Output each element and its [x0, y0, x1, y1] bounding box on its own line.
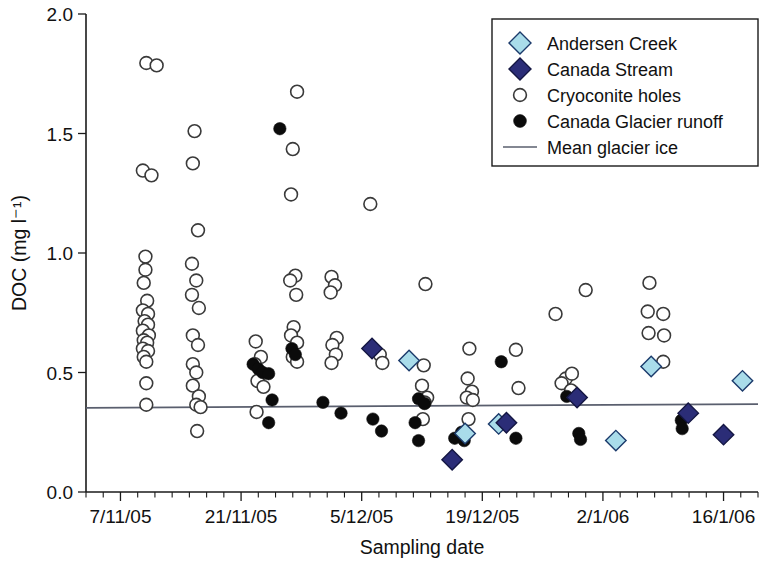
point-andersen-creek [606, 430, 626, 450]
point-cryoconite-holes [249, 335, 262, 348]
figure-container: 0.00.51.01.52.07/11/0521/11/055/12/0519/… [0, 0, 770, 563]
point-cryoconite-holes [657, 308, 670, 321]
point-cryoconite-holes [140, 377, 153, 390]
point-cryoconite-holes [643, 276, 656, 289]
axis-titles-group: Sampling dateDOC (mg l⁻¹) [8, 195, 484, 558]
x-axis-title: Sampling date [360, 536, 485, 558]
y-tick-label: 0.0 [47, 482, 73, 503]
point-cryoconite-holes [257, 380, 270, 393]
point-cryoconite-holes [376, 357, 389, 370]
x-tick-label: 19/12/05 [445, 506, 519, 527]
point-cryoconite-holes [186, 257, 199, 270]
point-cryoconite-holes [192, 339, 205, 352]
point-cryoconite-holes [549, 308, 562, 321]
point-cryoconite-holes [145, 169, 158, 182]
y-tick-label: 1.0 [47, 243, 73, 264]
point-cryoconite-holes [290, 288, 303, 301]
point-canada-glacier-runoff [266, 394, 278, 406]
point-cryoconite-holes [463, 342, 476, 355]
point-cryoconite-holes [510, 343, 523, 356]
point-cryoconite-holes [641, 305, 654, 318]
point-cryoconite-holes [192, 302, 205, 315]
point-cryoconite-holes [139, 250, 152, 263]
x-tick-label: 21/11/05 [205, 506, 278, 527]
doc-scatter-chart: 0.00.51.01.52.07/11/0521/11/055/12/0519/… [0, 0, 770, 563]
point-cryoconite-holes [250, 406, 263, 419]
x-tick-label: 16/1/06 [692, 506, 755, 527]
chart-legend: Andersen CreekCanada StreamCryoconite ho… [492, 19, 758, 166]
point-cryoconite-holes [419, 278, 432, 291]
point-cryoconite-holes [190, 366, 203, 379]
x-tick-label: 7/11/05 [89, 506, 151, 527]
point-cryoconite-holes [286, 143, 299, 156]
point-cryoconite-holes [285, 188, 298, 201]
point-cryoconite-holes [194, 401, 207, 414]
point-cryoconite-holes [642, 327, 655, 340]
point-canada-glacier-runoff [495, 356, 507, 368]
point-cryoconite-holes [466, 394, 479, 407]
legend-label-canada-glacier-runoff: Canada Glacier runoff [547, 112, 724, 132]
legend-label-canada-stream: Canada Stream [547, 60, 673, 80]
point-cryoconite-holes [579, 284, 592, 297]
point-cryoconite-holes [325, 357, 338, 370]
legend-marker-cryoconite-holes [514, 89, 527, 102]
point-canada-glacier-runoff [262, 416, 274, 428]
point-canada-glacier-runoff [367, 413, 379, 425]
point-andersen-creek [399, 350, 419, 370]
legend-marker-canada-glacier-runoff [514, 115, 527, 128]
y-tick-label: 2.0 [47, 4, 73, 25]
point-canada-glacier-runoff [274, 123, 286, 135]
point-cryoconite-holes [191, 425, 204, 438]
point-cryoconite-holes [140, 355, 153, 368]
point-cryoconite-holes [140, 398, 153, 411]
point-canada-glacier-runoff [317, 396, 329, 408]
point-cryoconite-holes [192, 224, 205, 237]
point-canada-glacier-runoff [510, 432, 522, 444]
point-cryoconite-holes [416, 379, 429, 392]
y-tick-label: 1.5 [47, 124, 73, 145]
point-canada-stream [442, 449, 462, 469]
point-canada-glacier-runoff [574, 433, 586, 445]
point-canada-glacier-runoff [409, 416, 421, 428]
point-canada-glacier-runoff [375, 425, 387, 437]
legend-label-mean-glacier-ice: Mean glacier ice [547, 138, 678, 158]
point-cryoconite-holes [324, 286, 337, 299]
point-canada-glacier-runoff [335, 407, 347, 419]
point-cryoconite-holes [186, 288, 199, 301]
point-cryoconite-holes [137, 276, 150, 289]
point-cryoconite-holes [139, 263, 152, 276]
y-tick-label: 0.5 [47, 363, 73, 384]
legend-label-cryoconite-holes: Cryoconite holes [547, 86, 681, 106]
point-andersen-creek [732, 371, 752, 391]
point-cryoconite-holes [186, 157, 199, 170]
x-tick-label: 2/1/06 [577, 506, 630, 527]
point-cryoconite-holes [150, 59, 163, 72]
point-cryoconite-holes [461, 372, 474, 385]
point-canada-stream [713, 424, 733, 444]
y-axis-title: DOC (mg l⁻¹) [8, 195, 30, 311]
point-cryoconite-holes [291, 85, 304, 98]
point-canada-glacier-runoff [412, 434, 424, 446]
point-cryoconite-holes [364, 198, 377, 211]
point-canada-glacier-runoff [289, 348, 301, 360]
point-cryoconite-holes [658, 329, 671, 342]
point-cryoconite-holes [512, 382, 525, 395]
point-cryoconite-holes [566, 367, 579, 380]
point-canada-glacier-runoff [262, 367, 274, 379]
point-canada-glacier-runoff [676, 422, 688, 434]
point-canada-glacier-runoff [418, 397, 430, 409]
point-cryoconite-holes [284, 274, 297, 287]
point-cryoconite-holes [188, 125, 201, 138]
legend-label-andersen-creek: Andersen Creek [547, 34, 678, 54]
x-tick-label: 5/12/05 [330, 506, 393, 527]
point-cryoconite-holes [190, 274, 203, 287]
